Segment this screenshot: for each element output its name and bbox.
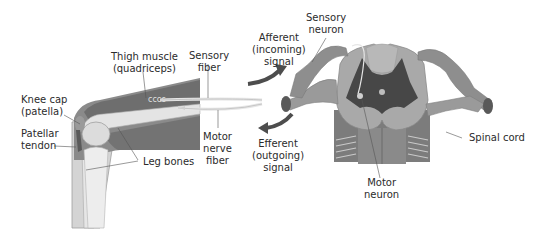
label-thigh-muscle: Thigh muscle (quadriceps) [111, 51, 178, 75]
label-sensory-neuron: Sensory neuron [306, 12, 346, 36]
label-afferent-signal: Afferent (incoming) signal [252, 32, 306, 68]
label-sensory-fiber: Sensory fiber [189, 50, 229, 74]
label-efferent-signal: Efferent (outgoing) signal [252, 138, 304, 174]
label-patellar-tendon: Patellar tendon [21, 128, 59, 152]
label-knee-cap: Knee cap (patella) [21, 94, 67, 118]
label-leg-bones: Leg bones [143, 156, 194, 168]
reflex-arc-diagram: cccc [0, 0, 543, 231]
label-motor-nerve-fiber: Motor nerve fiber [203, 131, 232, 167]
label-motor-neuron: Motor neuron [364, 177, 399, 201]
spinal-cord-illustration [281, 44, 493, 164]
label-spinal-cord: Spinal cord [469, 132, 525, 144]
efferent-arrow-icon [258, 114, 292, 134]
